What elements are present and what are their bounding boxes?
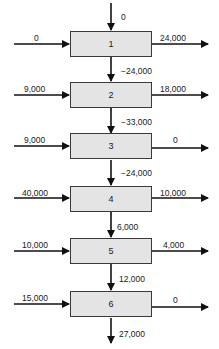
- stage-box-2: 2: [70, 82, 152, 108]
- stage-box-4: 4: [70, 186, 152, 212]
- left-input-label-5: 10,000: [22, 240, 48, 250]
- top-input-label: 0: [121, 12, 126, 22]
- right-output-label-1: 24,000: [160, 33, 186, 43]
- stage-id: 5: [108, 246, 113, 256]
- down-flow-label-5: 12,000: [119, 274, 145, 284]
- left-input-label-2: 9,000: [24, 84, 45, 94]
- stage-box-5: 5: [70, 238, 152, 264]
- down-flow-label-3: −24,000: [121, 168, 152, 178]
- right-output-label-6: 0: [173, 295, 178, 305]
- down-flow-label-1: −24,000: [121, 66, 152, 76]
- stage-box-3: 3: [70, 133, 152, 159]
- stage-id: 3: [108, 141, 113, 151]
- left-input-label-3: 9,000: [24, 135, 45, 145]
- stage-id: 4: [108, 194, 113, 204]
- right-output-label-3: 0: [173, 135, 178, 145]
- down-flow-label-2: −33,000: [121, 117, 152, 127]
- right-output-label-4: 10,000: [160, 188, 186, 198]
- left-input-label-6: 15,000: [22, 293, 48, 303]
- stage-id: 6: [108, 299, 113, 309]
- stage-id: 1: [108, 39, 113, 49]
- left-input-label-4: 40,000: [22, 188, 48, 198]
- stage-box-6: 6: [70, 291, 152, 317]
- stage-id: 2: [108, 90, 113, 100]
- left-input-label-1: 0: [34, 33, 39, 43]
- down-flow-label-4: 6,000: [117, 222, 138, 232]
- stage-box-1: 1: [70, 31, 152, 57]
- down-flow-label-6: 27,000: [119, 329, 145, 339]
- flow-diagram: 0 1 0 24,000 −24,000 2 9,000 18,000 −33,…: [0, 0, 219, 349]
- right-output-label-2: 18,000: [160, 84, 186, 94]
- right-output-label-5: 4,000: [163, 240, 184, 250]
